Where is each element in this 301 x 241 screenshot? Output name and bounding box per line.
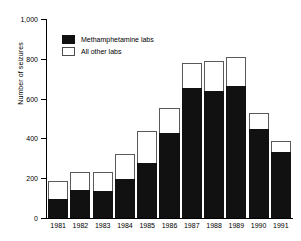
- y-tick-mark: [41, 138, 47, 139]
- bar-1989: [226, 57, 246, 218]
- bar-1988: [204, 61, 224, 218]
- y-tick-mark: [41, 178, 47, 179]
- x-tick-label: 1985: [136, 222, 158, 229]
- bar-segment-methamphetamine-labs: [70, 190, 90, 218]
- y-tick-mark: [41, 218, 47, 219]
- bar-1986: [159, 108, 179, 218]
- legend-swatch-white-icon: [62, 47, 75, 56]
- x-tick-label: 1991: [270, 222, 292, 229]
- x-tick-label: 1984: [114, 222, 136, 229]
- bar-segment-methamphetamine-labs: [115, 179, 135, 218]
- legend-item-all-other-labs: All other labs: [62, 47, 154, 56]
- y-axis-line: [46, 19, 47, 219]
- chart-figure: Number of seizures 02004006008001,000 19…: [0, 0, 301, 241]
- bar-segment-methamphetamine-labs: [226, 86, 246, 218]
- bar-segment-methamphetamine-labs: [48, 199, 68, 218]
- bar-segment-methamphetamine-labs: [271, 152, 291, 218]
- legend-item-methamphetamine-labs: Methamphetamine labs: [62, 35, 154, 44]
- y-tick-label: 1,000: [20, 16, 38, 23]
- y-tick-label: 200: [26, 175, 38, 182]
- bar-1990: [249, 113, 269, 218]
- x-tick-label: 1983: [92, 222, 114, 229]
- legend-label: All other labs: [81, 48, 121, 55]
- bar-1981: [48, 181, 68, 218]
- bar-segment-methamphetamine-labs: [182, 88, 202, 218]
- bar-1983: [93, 172, 113, 218]
- bar-1991: [271, 141, 291, 218]
- x-tick-label: 1981: [47, 222, 69, 229]
- x-tick-label: 1987: [181, 222, 203, 229]
- bar-segment-methamphetamine-labs: [93, 191, 113, 218]
- y-tick-mark: [41, 19, 47, 20]
- bar-segment-methamphetamine-labs: [137, 163, 157, 218]
- bar-segment-methamphetamine-labs: [159, 133, 179, 218]
- y-axis-title: Number of seizures: [17, 14, 24, 134]
- chart-legend: Methamphetamine labs All other labs: [62, 35, 154, 59]
- x-tick-label: 1989: [225, 222, 247, 229]
- x-tick-label: 1982: [69, 222, 91, 229]
- x-tick-label: 1988: [203, 222, 225, 229]
- bar-1987: [182, 63, 202, 218]
- legend-swatch-black-icon: [62, 35, 75, 44]
- y-tick-mark: [41, 59, 47, 60]
- y-tick-label: 400: [26, 135, 38, 142]
- x-axis-line: [46, 218, 293, 219]
- x-tick-label: 1986: [158, 222, 180, 229]
- x-tick-label: 1990: [247, 222, 269, 229]
- bar-1984: [115, 154, 135, 218]
- legend-label: Methamphetamine labs: [81, 36, 154, 43]
- bar-segment-methamphetamine-labs: [204, 91, 224, 218]
- bar-1985: [137, 131, 157, 218]
- bar-1982: [70, 172, 90, 218]
- bar-segment-methamphetamine-labs: [249, 129, 269, 218]
- y-tick-label: 600: [26, 95, 38, 102]
- y-tick-label: 800: [26, 55, 38, 62]
- y-tick-label: 0: [34, 215, 38, 222]
- y-tick-mark: [41, 99, 47, 100]
